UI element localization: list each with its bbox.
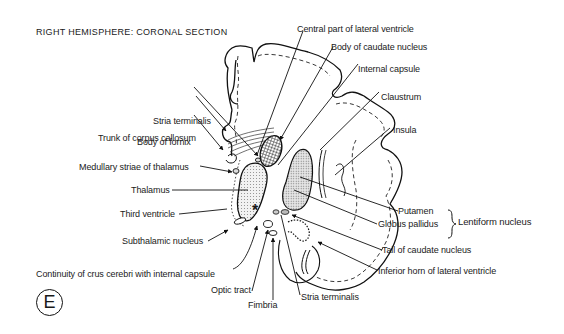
label-putamen: Putamen <box>398 206 433 216</box>
label-lentiform-nucleus: Lentiform nucleus <box>458 216 531 227</box>
label-globus-pallidus: Globus pallidus <box>378 219 438 229</box>
inferior-horn-shape <box>288 220 309 241</box>
label-medullary-striae-thalamus: Medullary striae of thalamus <box>79 162 189 172</box>
label-stria-terminalis-bottom: Stria terminalis <box>301 292 359 302</box>
label-internal-capsule: Internal capsule <box>358 64 420 74</box>
asterisk-marker: * <box>252 202 258 220</box>
label-insula: Insula <box>393 125 416 135</box>
label-continuity-crus-cerebri: Continuity of crus cerebri with internal… <box>36 269 215 279</box>
label-body-caudate-nucleus: Body of caudate nucleus <box>331 42 427 52</box>
fimbria-shape <box>269 231 277 236</box>
label-tail-caudate-nucleus: Tail of caudate nucleus <box>382 245 471 255</box>
label-inferior-horn-lateral-ventricle: Inferior horn of lateral ventricle <box>378 266 496 276</box>
optic-tract-shape <box>264 221 273 228</box>
panel-label-badge: E <box>36 289 63 316</box>
label-stria-terminalis-top: Stria terminalis <box>153 116 211 126</box>
stria-terminalis-shape <box>255 158 260 162</box>
label-claustrum: Claustrum <box>381 92 421 102</box>
claustrum-shape <box>319 150 322 198</box>
label-central-part-lateral-ventricle: Central part of lateral ventricle <box>297 24 414 34</box>
label-thalamus: Thalamus <box>131 185 170 195</box>
label-fimbria: Fimbria <box>248 300 277 310</box>
label-third-ventricle: Third ventricle <box>120 209 175 219</box>
medullary-striae-shape <box>233 169 239 174</box>
label-subthalamic-nucleus: Subthalamic nucleus <box>122 236 203 246</box>
label-body-of-fornix: Body of fornix <box>137 137 191 147</box>
label-optic-tract: Optic tract <box>211 285 251 295</box>
subthalamic-nucleus-shape <box>233 217 246 226</box>
lentiform-brace <box>448 210 456 238</box>
